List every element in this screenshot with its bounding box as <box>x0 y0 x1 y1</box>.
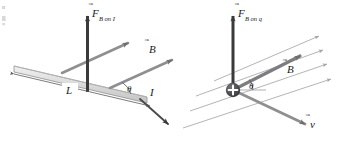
current-label: I <box>149 86 155 98</box>
velocity-vector: v ⃗ <box>233 90 315 130</box>
field-label-left: B ⃗ <box>144 39 156 56</box>
angle-label-right: θ <box>249 81 254 91</box>
angle-label-left: θ <box>127 84 132 94</box>
left-panel-force-on-wire: F ⃗ B on I B ⃗ θ I L <box>14 3 172 125</box>
force-symbol-left: F <box>91 7 99 19</box>
field-line-4 <box>183 79 331 128</box>
force-subscript-left: B on I <box>99 15 116 22</box>
force-vector-accent-right: ⃗ <box>234 3 239 5</box>
force-subscript-right: B on q <box>245 15 263 22</box>
left-field-arrow-lower <box>110 60 172 88</box>
field-vector-accent-right: ⃗ <box>282 59 287 61</box>
field-symbol-left: B <box>149 43 156 55</box>
left-field-arrow-upper <box>62 43 128 73</box>
force-label-b-on-i: F ⃗ B on I <box>88 3 116 23</box>
length-label: L <box>65 84 72 96</box>
right-panel-force-on-charge: B ⃗ v ⃗ θ F <box>183 3 331 131</box>
field-symbol-right: B <box>287 63 294 75</box>
velocity-vector-accent: ⃗ <box>305 114 310 116</box>
force-vector-accent-left: ⃗ <box>88 3 93 5</box>
physics-figure-pair: F ⃗ B on I B ⃗ θ I L <box>0 0 345 146</box>
margin-scrap-marks <box>2 6 6 25</box>
field-lines-group <box>183 36 331 128</box>
positive-charge <box>226 83 240 97</box>
force-label-b-on-q: F ⃗ B on q <box>234 3 263 23</box>
field-line-2 <box>196 50 323 96</box>
velocity-symbol: v <box>310 118 315 130</box>
angle-arc-right: θ <box>249 80 254 92</box>
field-vector-accent-left: ⃗ <box>144 39 149 41</box>
figure-canvas: F ⃗ B on I B ⃗ θ I L <box>0 0 345 146</box>
force-symbol-right: F <box>237 7 245 19</box>
